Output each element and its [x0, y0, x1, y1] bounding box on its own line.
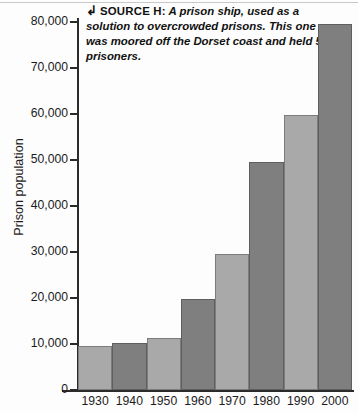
y-tick-mark — [70, 67, 78, 68]
bar-1960 — [181, 299, 215, 390]
x-axis-line — [62, 390, 354, 392]
top-divider — [0, 2, 358, 3]
y-tick-label: 40,000 — [4, 198, 68, 212]
y-tick-mark — [70, 297, 78, 298]
x-tick-label: 1950 — [147, 394, 181, 408]
y-tick-mark — [70, 159, 78, 160]
x-tick-label: 1940 — [112, 394, 146, 408]
y-tick-label: 70,000 — [4, 60, 68, 74]
source-label: SOURCE H: — [100, 5, 166, 17]
bar-1940 — [112, 343, 146, 390]
y-tick-label: 20,000 — [4, 290, 68, 304]
y-tick-label: 10,000 — [4, 336, 68, 350]
bar-1990 — [284, 115, 318, 390]
y-tick-mark — [70, 21, 78, 22]
bar-1930 — [78, 346, 112, 390]
bar-1980 — [249, 162, 283, 390]
x-tick-label: 2000 — [318, 394, 352, 408]
y-tick-mark — [70, 389, 78, 390]
x-tick-label: 1980 — [249, 394, 283, 408]
x-tick-label: 1970 — [215, 394, 249, 408]
y-tick-label: 0 — [4, 382, 68, 396]
bar-1950 — [147, 338, 181, 390]
y-tick-mark — [70, 251, 78, 252]
x-tick-label: 1990 — [284, 394, 318, 408]
y-tick-label: 80,000 — [4, 14, 68, 28]
y-tick-label: 50,000 — [4, 152, 68, 166]
y-tick-label: 30,000 — [4, 244, 68, 258]
bar-1970 — [215, 254, 249, 390]
chart-figure: ↳SOURCE H: A prison ship, used as a solu… — [0, 0, 358, 413]
x-tick-label: 1930 — [78, 394, 112, 408]
y-tick-mark — [70, 343, 78, 344]
x-tick-label: 1960 — [181, 394, 215, 408]
hook-arrow-icon: ↳ — [86, 4, 97, 19]
y-tick-mark — [70, 113, 78, 114]
bar-2000 — [318, 24, 352, 390]
y-tick-label: 60,000 — [4, 106, 68, 120]
y-tick-mark — [70, 205, 78, 206]
plot-area — [78, 22, 352, 390]
